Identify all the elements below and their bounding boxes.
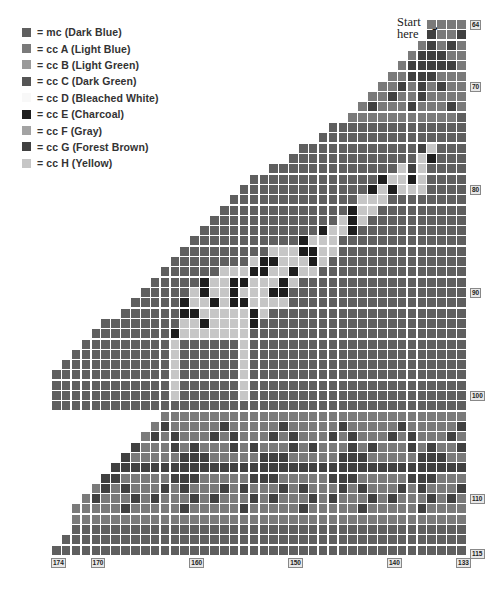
stitch-cell bbox=[329, 504, 338, 513]
color-swatch-icon bbox=[22, 159, 31, 168]
stitch-cell bbox=[240, 422, 249, 431]
stitch-cell bbox=[260, 309, 269, 318]
stitch-cell bbox=[190, 288, 199, 297]
column-number-label: 174 bbox=[51, 558, 66, 568]
stitch-cell bbox=[358, 391, 367, 400]
stitch-cell bbox=[161, 535, 170, 544]
stitch-cell bbox=[437, 319, 446, 328]
stitch-cell bbox=[447, 474, 456, 483]
stitch-cell bbox=[230, 278, 239, 287]
stitch-cell bbox=[427, 288, 436, 297]
stitch-cell bbox=[427, 546, 436, 555]
stitch-cell bbox=[279, 381, 288, 390]
stitch-cell bbox=[279, 474, 288, 483]
stitch-cell bbox=[279, 525, 288, 534]
stitch-cell bbox=[141, 463, 150, 472]
stitch-cell bbox=[299, 309, 308, 318]
stitch-cell bbox=[427, 319, 436, 328]
stitch-cell bbox=[329, 175, 338, 184]
stitch-cell bbox=[378, 226, 387, 235]
stitch-cell bbox=[240, 546, 249, 555]
stitch-cell bbox=[418, 206, 427, 215]
stitch-cell bbox=[427, 484, 436, 493]
stitch-cell bbox=[329, 206, 338, 215]
stitch-cell bbox=[398, 154, 407, 163]
stitch-cell bbox=[299, 360, 308, 369]
stitch-cell bbox=[418, 443, 427, 452]
stitch-cell bbox=[210, 267, 219, 276]
stitch-cell bbox=[279, 535, 288, 544]
stitch-cell bbox=[427, 463, 436, 472]
stitch-cell bbox=[269, 226, 278, 235]
stitch-cell bbox=[260, 494, 269, 503]
stitch-cell bbox=[339, 340, 348, 349]
stitch-cell bbox=[131, 515, 140, 524]
stitch-cell bbox=[299, 329, 308, 338]
stitch-cell bbox=[408, 257, 417, 266]
stitch-cell bbox=[319, 443, 328, 452]
stitch-cell bbox=[447, 525, 456, 534]
stitch-cell bbox=[319, 185, 328, 194]
stitch-cell bbox=[131, 443, 140, 452]
stitch-cell bbox=[358, 474, 367, 483]
stitch-cell bbox=[289, 309, 298, 318]
stitch-cell bbox=[309, 247, 318, 256]
stitch-cell bbox=[141, 474, 150, 483]
stitch-cell bbox=[200, 432, 209, 441]
stitch-cell bbox=[82, 535, 91, 544]
stitch-cell bbox=[309, 360, 318, 369]
stitch-cell bbox=[210, 401, 219, 410]
stitch-cell bbox=[161, 360, 170, 369]
stitch-cell bbox=[151, 525, 160, 534]
stitch-cell bbox=[171, 422, 180, 431]
stitch-cell bbox=[279, 195, 288, 204]
stitch-cell bbox=[101, 494, 110, 503]
stitch-cell bbox=[418, 474, 427, 483]
stitch-cell bbox=[348, 123, 357, 132]
stitch-cell bbox=[92, 329, 101, 338]
stitch-cell bbox=[388, 288, 397, 297]
stitch-cell bbox=[141, 525, 150, 534]
stitch-cell bbox=[378, 123, 387, 132]
stitch-cell bbox=[82, 401, 91, 410]
stitch-cell bbox=[220, 525, 229, 534]
stitch-cell bbox=[299, 391, 308, 400]
stitch-cell bbox=[269, 381, 278, 390]
stitch-cell bbox=[269, 216, 278, 225]
stitch-cell bbox=[408, 278, 417, 287]
stitch-cell bbox=[190, 494, 199, 503]
stitch-cell bbox=[358, 195, 367, 204]
stitch-cell bbox=[418, 309, 427, 318]
stitch-cell bbox=[388, 546, 397, 555]
stitch-cell bbox=[447, 247, 456, 256]
stitch-cell bbox=[348, 422, 357, 431]
stitch-cell bbox=[260, 484, 269, 493]
stitch-cell bbox=[240, 535, 249, 544]
stitch-cell bbox=[171, 319, 180, 328]
stitch-cell bbox=[161, 350, 170, 359]
stitch-cell bbox=[398, 72, 407, 81]
stitch-cell bbox=[319, 494, 328, 503]
stitch-cell bbox=[210, 422, 219, 431]
stitch-cell bbox=[408, 51, 417, 60]
stitch-cell bbox=[260, 329, 269, 338]
stitch-cell bbox=[378, 257, 387, 266]
stitch-cell bbox=[309, 340, 318, 349]
stitch-cell bbox=[230, 226, 239, 235]
stitch-cell bbox=[200, 360, 209, 369]
stitch-cell bbox=[230, 453, 239, 462]
stitch-cell bbox=[418, 391, 427, 400]
stitch-cell bbox=[210, 515, 219, 524]
stitch-cell bbox=[319, 236, 328, 245]
stitch-cell bbox=[378, 381, 387, 390]
stitch-cell bbox=[230, 504, 239, 513]
stitch-cell bbox=[398, 504, 407, 513]
stitch-cell bbox=[279, 484, 288, 493]
stitch-cell bbox=[358, 144, 367, 153]
stitch-cell bbox=[437, 391, 446, 400]
stitch-cell bbox=[348, 329, 357, 338]
stitch-cell bbox=[358, 535, 367, 544]
stitch-cell bbox=[240, 463, 249, 472]
stitch-cell bbox=[408, 494, 417, 503]
stitch-cell bbox=[427, 412, 436, 421]
